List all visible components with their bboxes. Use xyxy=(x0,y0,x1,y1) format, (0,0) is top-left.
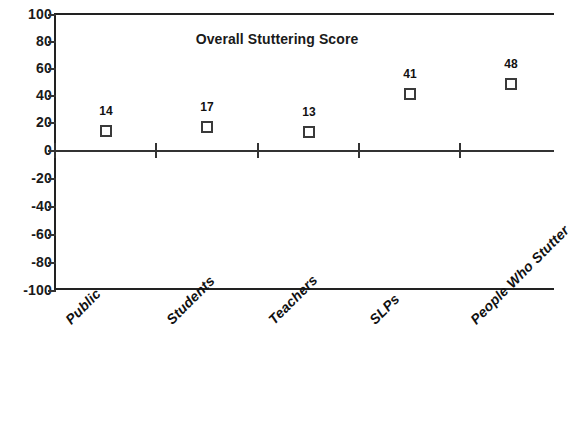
x-tick-students xyxy=(155,143,157,158)
y-tick-mark-100 xyxy=(48,14,56,16)
y-tick-label-0: 0 xyxy=(6,143,52,157)
data-label-students: 17 xyxy=(185,101,229,113)
y-tick-label-neg100: -100 xyxy=(6,283,52,297)
y-tick-label-neg20: -20 xyxy=(6,171,52,185)
y-tick-label-40: 40 xyxy=(6,88,52,102)
y-tick-mark-neg80 xyxy=(48,262,56,264)
data-label-public: 14 xyxy=(84,105,128,117)
y-tick-label-20: 20 xyxy=(6,115,52,129)
y-tick-mark-neg20 xyxy=(48,178,56,180)
x-axis-zero-line xyxy=(54,150,554,152)
y-tick-label-100: 100 xyxy=(6,7,52,21)
x-category-label-public: Public xyxy=(62,285,104,327)
y-tick-mark-20 xyxy=(48,122,56,124)
y-tick-mark-neg60 xyxy=(48,234,56,236)
x-category-label-slps: SLPs xyxy=(366,291,403,328)
y-tick-mark-neg100 xyxy=(48,290,56,292)
data-label-teachers: 13 xyxy=(287,106,331,118)
y-tick-label-neg80: -80 xyxy=(6,255,52,269)
square-marker-icon xyxy=(303,126,315,138)
y-tick-label-neg60: -60 xyxy=(6,227,52,241)
square-marker-icon xyxy=(404,88,416,100)
y-tick-mark-neg40 xyxy=(48,206,56,208)
y-tick-mark-60 xyxy=(48,68,56,70)
x-tick-public xyxy=(54,143,56,158)
data-label-people-who-stutter: 48 xyxy=(489,58,533,70)
data-label-slps: 41 xyxy=(388,68,432,80)
x-tick-teachers xyxy=(257,143,259,158)
chart-title: Overall Stuttering Score xyxy=(0,31,554,47)
square-marker-icon xyxy=(505,78,517,90)
square-marker-icon xyxy=(201,121,213,133)
y-tick-mark-40 xyxy=(48,95,56,97)
square-marker-icon xyxy=(100,125,112,137)
x-tick-slps xyxy=(358,143,360,158)
x-tick-pws xyxy=(459,143,461,158)
y-axis: 100 80 60 40 20 0 -20 -40 -60 -80 -100 xyxy=(0,0,52,424)
y-tick-label-60: 60 xyxy=(6,61,52,75)
y-tick-label-neg40: -40 xyxy=(6,199,52,213)
